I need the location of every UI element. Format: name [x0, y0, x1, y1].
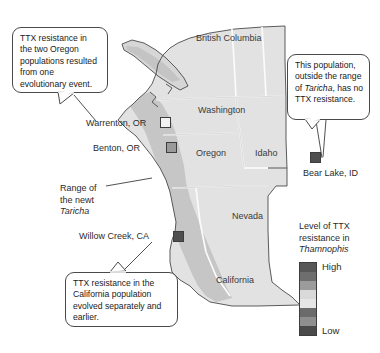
region-label-oregon: Oregon — [196, 148, 226, 159]
region-label-california: California — [216, 275, 254, 286]
legend-swatch-3 — [300, 290, 316, 299]
legend-swatch-5 — [300, 308, 316, 317]
legend-swatch-2 — [300, 281, 316, 290]
legend-swatch-1 — [300, 272, 316, 281]
callout-bear-lake-population: This population, outside the range of Ta… — [287, 54, 370, 120]
legend-title-line2: resistance in — [299, 233, 379, 245]
legend-swatch-0 — [300, 263, 316, 272]
site-marker-benton[interactable] — [166, 142, 177, 153]
legend-gradient-bar — [299, 262, 317, 336]
site-marker-willow-creek[interactable] — [173, 231, 184, 242]
callout-bearlake-genus: Taricha — [305, 83, 333, 93]
callout-california-population: TTX resistance in the California populat… — [65, 272, 178, 327]
leader-range-label — [106, 178, 152, 186]
range-label-genus: Taricha — [60, 206, 97, 218]
region-label-washington: Washington — [198, 105, 245, 116]
legend-title: Level of TTX resistance in Thamnophis — [299, 221, 379, 256]
leader-california-callout — [122, 242, 152, 272]
leader-bearlake-callout-b — [323, 120, 326, 157]
legend: Level of TTX resistance in Thamnophis Hi… — [299, 221, 379, 336]
legend-swatch-7 — [300, 326, 316, 335]
legend-end-labels: High Low — [322, 262, 379, 336]
region-label-nevada: Nevada — [232, 211, 263, 222]
callout-oregon-populations: TTX resistance in the two Oregon populat… — [12, 27, 108, 93]
site-label-bear-lake: Bear Lake, ID — [303, 168, 358, 179]
callout-california-text: TTX resistance in the California populat… — [73, 278, 161, 322]
legend-title-genus: Thamnophis — [299, 244, 379, 256]
site-marker-bear-lake[interactable] — [310, 152, 321, 163]
figure-ttx-resistance-map: British Columbia Washington Oregon Idaho… — [0, 0, 380, 353]
legend-title-line1: Level of TTX — [299, 221, 379, 233]
site-label-willow-creek: Willow Creek, CA — [79, 231, 149, 242]
legend-swatch-4 — [300, 299, 316, 308]
legend-label-low: Low — [322, 325, 339, 336]
taricha-range-label: Range of the newt Taricha — [60, 183, 97, 218]
legend-swatch-6 — [300, 317, 316, 326]
legend-body: High Low — [299, 262, 379, 336]
callout-bearlake-text: This population, outside the range of Ta… — [295, 60, 363, 104]
legend-label-high: High — [322, 261, 342, 272]
site-label-warrenton: Warrenton, OR — [86, 118, 146, 129]
range-label-line2: the newt — [60, 195, 97, 207]
range-label-line1: Range of — [60, 183, 97, 195]
site-marker-warrenton[interactable] — [160, 117, 171, 128]
site-label-benton: Benton, OR — [93, 143, 140, 154]
region-label-idaho: Idaho — [255, 148, 278, 159]
callout-oregon-text: TTX resistance in the two Oregon populat… — [20, 33, 97, 89]
region-label-british-columbia: British Columbia — [196, 33, 262, 44]
